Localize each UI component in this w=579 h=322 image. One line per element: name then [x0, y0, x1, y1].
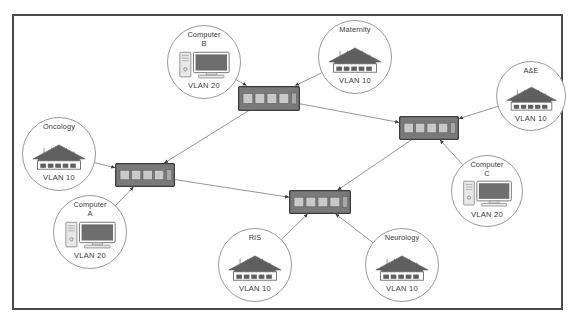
computer-icon	[64, 218, 117, 252]
node-label: RIS	[218, 234, 292, 243]
node-switch-top[interactable]	[238, 86, 300, 111]
node-switch-right[interactable]	[399, 116, 459, 140]
node-label: Neurology	[365, 234, 439, 243]
node-oncology[interactable]: OncologyVLAN 10	[22, 117, 96, 191]
node-label: Maternity	[318, 26, 392, 35]
building-icon-wrap	[218, 255, 292, 283]
node-vlan-label: VLAN 10	[22, 173, 96, 182]
building-icon	[374, 255, 430, 283]
node-switch-left[interactable]	[115, 163, 175, 187]
computer-icon-wrap	[167, 48, 241, 82]
node-neurology[interactable]: NeurologyVLAN 10	[365, 228, 439, 302]
node-switch-bottom[interactable]	[289, 190, 351, 214]
node-ris[interactable]: RISVLAN 10	[218, 228, 292, 302]
building-icon	[327, 47, 383, 75]
node-label: A&E	[496, 67, 566, 76]
node-label: Computer B	[167, 31, 241, 48]
building-icon-wrap	[496, 86, 566, 113]
switch-icon	[238, 86, 300, 111]
switch-icon	[115, 163, 175, 187]
node-label: Computer C	[451, 161, 523, 178]
node-vlan-label: VLAN 20	[167, 81, 241, 90]
switch-icon	[399, 116, 459, 140]
computer-icon-wrap	[53, 218, 127, 252]
node-vlan-label: VLAN 10	[365, 284, 439, 293]
network-diagram-canvas: Computer BVLAN 20MaternityVLAN 10A&EVLAN…	[0, 0, 579, 322]
node-label: Oncology	[22, 123, 96, 132]
node-vlan-label: VLAN 20	[53, 251, 127, 260]
computer-icon	[178, 48, 231, 82]
node-vlan-label: VLAN 10	[218, 284, 292, 293]
node-computer-c[interactable]: Computer CVLAN 20	[451, 155, 523, 227]
building-icon	[505, 86, 558, 113]
computer-icon-wrap	[451, 177, 523, 210]
node-ae[interactable]: A&EVLAN 10	[496, 61, 566, 131]
node-vlan-label: VLAN 10	[496, 114, 566, 123]
building-icon	[227, 255, 283, 283]
building-icon-wrap	[365, 255, 439, 283]
node-maternity[interactable]: MaternityVLAN 10	[318, 20, 392, 94]
node-computer-b[interactable]: Computer BVLAN 20	[167, 25, 241, 99]
node-label: Computer A	[53, 201, 127, 218]
switch-icon	[289, 190, 351, 214]
building-icon	[31, 144, 87, 172]
computer-icon	[462, 177, 513, 210]
node-computer-a[interactable]: Computer AVLAN 20	[53, 195, 127, 269]
building-icon-wrap	[22, 144, 96, 172]
node-vlan-label: VLAN 10	[318, 76, 392, 85]
building-icon-wrap	[318, 47, 392, 75]
node-vlan-label: VLAN 20	[451, 210, 523, 219]
